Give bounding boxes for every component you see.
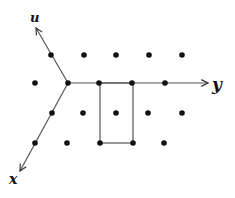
- axis-x: [20, 83, 68, 171]
- lattice-point: [65, 80, 71, 86]
- lattice-point: [113, 52, 119, 58]
- lattice-point: [179, 52, 185, 58]
- axis-label-u: u: [30, 10, 39, 25]
- axis-label-y: y: [211, 74, 223, 94]
- lattice-point: [146, 52, 152, 58]
- lattice-point: [32, 140, 38, 146]
- lattice-point: [161, 140, 167, 146]
- axis-label-x: x: [8, 171, 18, 187]
- lattice-point: [179, 110, 185, 116]
- lattice-point: [129, 80, 135, 86]
- lattice-point: [145, 110, 151, 116]
- axis-labels: u y x: [8, 10, 223, 187]
- lattice-point: [80, 110, 86, 116]
- axes: [20, 28, 208, 171]
- lattice-points: [32, 52, 185, 146]
- lattice-point: [64, 140, 70, 146]
- lattice-point: [49, 110, 55, 116]
- lattice-point: [81, 52, 87, 58]
- lattice-point: [162, 80, 168, 86]
- lattice-point: [130, 140, 136, 146]
- lattice-point: [97, 140, 103, 146]
- lattice-diagram: u y x: [0, 0, 235, 198]
- lattice-point: [113, 110, 119, 116]
- lattice-point: [48, 52, 54, 58]
- lattice-point: [32, 80, 38, 86]
- lattice-point: [96, 80, 102, 86]
